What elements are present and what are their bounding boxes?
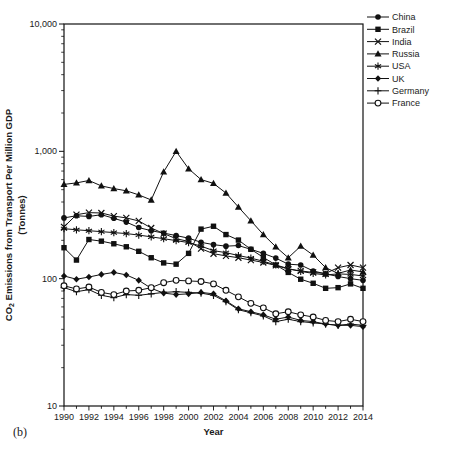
- series-USA: [61, 225, 366, 280]
- legend-entry-China: China: [367, 12, 416, 22]
- figure-label: (b): [13, 425, 27, 440]
- x-tick-label: 2004: [228, 412, 248, 422]
- y-tick-label: 10,000: [29, 19, 57, 29]
- y-axis-title: CO2 Emissions from Transport Per Million…: [3, 108, 15, 321]
- x-tick-label: 2008: [278, 412, 298, 422]
- x-tick-label: 1992: [79, 412, 99, 422]
- x-tick-label: 1996: [129, 412, 149, 422]
- x-tick-label: 2000: [179, 412, 199, 422]
- series-UK: [61, 269, 366, 330]
- legend-label: China: [392, 12, 416, 22]
- series-France: [61, 277, 366, 324]
- legend-entry-Germany: Germany: [367, 86, 430, 96]
- legend-label: Germany: [392, 86, 430, 96]
- legend-entry-UK: UK: [367, 74, 405, 84]
- x-tick-label: 1990: [54, 412, 74, 422]
- x-axis-title: Year: [203, 426, 223, 437]
- x-tick-label: 2012: [328, 412, 348, 422]
- axes: 101001,00010,000199019921994199619982000…: [3, 19, 373, 437]
- x-tick-label: 1994: [104, 412, 124, 422]
- legend-entry-USA: USA: [367, 61, 411, 71]
- legend-label: France: [392, 98, 420, 108]
- series-Russia: [61, 148, 367, 276]
- legend-entry-Brazil: Brazil: [367, 25, 415, 35]
- legend-label: Russia: [392, 49, 420, 59]
- co2-transport-line-chart: 101001,00010,000199019921994199619982000…: [0, 0, 451, 467]
- y-tick-label: 10: [47, 401, 57, 411]
- legend-label: USA: [392, 61, 411, 71]
- x-tick-label: 1998: [154, 412, 174, 422]
- y-tick-label: 100: [42, 274, 57, 284]
- legend-entry-India: India: [367, 37, 412, 47]
- figure-panel-b: 101001,00010,000199019921994199619982000…: [0, 0, 451, 467]
- co2-transport-chart: 101001,00010,000199019921994199619982000…: [0, 0, 451, 467]
- y-axis-title-units: (Tonnes): [16, 195, 27, 234]
- legend-entry-Russia: Russia: [367, 49, 420, 59]
- legend-entry-France: France: [367, 98, 420, 108]
- legend-label: UK: [392, 74, 405, 84]
- x-tick-label: 2014: [353, 412, 373, 422]
- legend-label: India: [392, 37, 412, 47]
- x-tick-label: 2002: [203, 412, 223, 422]
- x-tick-label: 2010: [303, 412, 323, 422]
- y-tick-label: 1,000: [34, 146, 57, 156]
- x-tick-label: 2006: [253, 412, 273, 422]
- legend: ChinaBrazilIndiaRussiaUSAUKGermanyFrance: [367, 12, 430, 108]
- legend-label: Brazil: [392, 25, 415, 35]
